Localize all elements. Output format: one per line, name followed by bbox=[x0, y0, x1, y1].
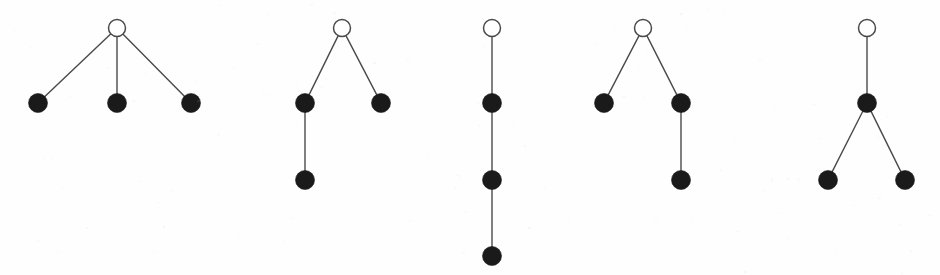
tree-1-edges bbox=[44, 34, 186, 98]
tree-node-filled-circle bbox=[29, 94, 48, 113]
tree-node-filled-circle bbox=[819, 171, 838, 190]
root-node-open-circle bbox=[859, 20, 876, 37]
tree-edge bbox=[647, 35, 678, 96]
tree-node-filled-circle bbox=[296, 171, 315, 190]
tree-node-filled-circle bbox=[896, 171, 915, 190]
nodes-layer bbox=[29, 20, 915, 266]
tree-node-filled-circle bbox=[182, 94, 201, 113]
tree-node-filled-circle bbox=[672, 171, 691, 190]
root-node-open-circle bbox=[484, 20, 501, 37]
root-node-open-circle bbox=[109, 20, 126, 37]
tree-edge bbox=[832, 111, 863, 173]
tree-node-filled-circle bbox=[595, 94, 614, 113]
tree-4-nodes bbox=[595, 20, 691, 190]
root-node-open-circle bbox=[334, 20, 351, 37]
tree-node-filled-circle bbox=[672, 94, 691, 113]
tree-edge bbox=[44, 34, 111, 98]
tree-2-nodes bbox=[296, 20, 391, 190]
tree-1-nodes bbox=[29, 20, 201, 113]
edges-layer bbox=[44, 34, 902, 248]
tree-node-filled-circle bbox=[108, 94, 127, 113]
figure-canvas bbox=[0, 0, 940, 275]
tree-node-filled-circle bbox=[483, 247, 502, 266]
tree-edge bbox=[346, 35, 378, 96]
tree-node-filled-circle bbox=[296, 94, 315, 113]
rooted-trees-diagram bbox=[0, 0, 940, 275]
tree-node-filled-circle bbox=[372, 94, 391, 113]
tree-edge bbox=[871, 111, 901, 173]
tree-node-filled-circle bbox=[858, 94, 877, 113]
tree-4-edges bbox=[608, 35, 681, 172]
tree-node-filled-circle bbox=[483, 171, 502, 190]
tree-edge bbox=[123, 34, 186, 98]
root-node-open-circle bbox=[635, 20, 652, 37]
tree-2-edges bbox=[305, 35, 377, 172]
tree-edge bbox=[608, 35, 640, 96]
tree-node-filled-circle bbox=[483, 94, 502, 113]
tree-edge bbox=[309, 35, 339, 96]
